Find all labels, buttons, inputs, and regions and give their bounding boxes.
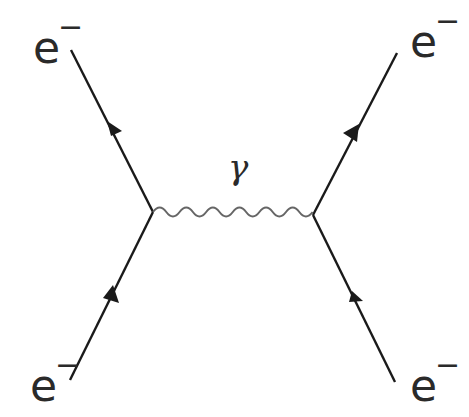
charge-superscript: − xyxy=(58,12,83,42)
arrow-icon-top-left xyxy=(107,121,122,136)
particle-symbol: e xyxy=(30,360,57,411)
particle-symbol: e xyxy=(410,16,437,67)
photon-label: γ xyxy=(228,150,248,184)
label-bottom-left: e− xyxy=(30,364,57,408)
feynman-diagram: e− e− e− e− γ xyxy=(0,0,469,417)
charge-superscript: − xyxy=(55,350,80,380)
charge-superscript: − xyxy=(435,6,460,36)
particle-symbol: e xyxy=(33,22,60,73)
charge-superscript: − xyxy=(435,350,460,380)
label-bottom-right: e− xyxy=(410,364,437,408)
label-top-right: e− xyxy=(410,20,437,64)
label-top-left: e− xyxy=(33,26,60,70)
particle-symbol: e xyxy=(410,360,437,411)
photon-propagator xyxy=(153,208,313,217)
